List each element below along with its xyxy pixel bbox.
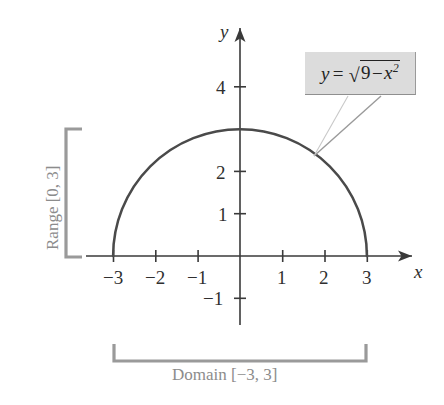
- x-axis-label: x: [414, 262, 422, 281]
- x-tick-label-neg3: −3: [103, 268, 123, 287]
- range-bracket-path: [66, 129, 82, 257]
- x-tick-label-1: 1: [277, 268, 287, 287]
- equation-callout-box: y=√9−x2: [305, 52, 416, 95]
- domain-bracket-path: [114, 344, 366, 361]
- semicircle-graph-figure: −3 −2 −1 1 2 3 4 2 1 −1 y x Range [0, 3]…: [0, 0, 444, 405]
- radicand-minus: −: [372, 63, 383, 84]
- y-tick-label-2: 2: [216, 163, 226, 182]
- y-axis: [235, 28, 246, 325]
- x-axis: [86, 251, 412, 262]
- y-tick-label-1: 1: [218, 205, 228, 224]
- x-tick-label-neg2: −2: [145, 268, 165, 287]
- radicand-exponent: 2: [393, 61, 399, 75]
- equation-equals: =: [333, 63, 344, 85]
- y-axis-label: y: [220, 22, 228, 41]
- x-tick-label-neg1: −1: [187, 268, 207, 287]
- equation-lhs: y: [321, 63, 330, 85]
- callout-tail: [314, 96, 381, 156]
- range-annotation-label: Range [0, 3]: [44, 165, 61, 250]
- range-bracket: [66, 129, 82, 257]
- y-tick-label-4: 4: [216, 78, 226, 97]
- domain-annotation-label: Domain [−3, 3]: [172, 366, 277, 383]
- equation-text: y=√9−x2: [305, 52, 416, 95]
- callout-tail-line-2: [314, 96, 348, 156]
- y-tick-label-neg1: −1: [203, 289, 223, 308]
- domain-bracket: [114, 344, 366, 361]
- x-tick-label-3: 3: [362, 268, 372, 287]
- equation-radical-group: √9−x2: [349, 61, 400, 85]
- radicand-variable: x: [384, 63, 393, 84]
- radicand-constant: 9: [361, 63, 371, 84]
- equation-radicand: 9−x2: [360, 60, 400, 84]
- radical-sign-icon: √: [349, 64, 360, 86]
- callout-tail-line: [314, 96, 381, 156]
- x-tick-label-2: 2: [319, 268, 329, 287]
